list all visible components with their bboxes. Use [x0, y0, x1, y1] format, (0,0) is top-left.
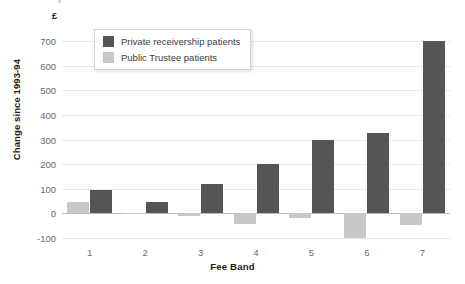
bar — [90, 190, 112, 213]
bar — [234, 213, 256, 224]
x-axis-title: Fee Band — [0, 261, 465, 272]
bar — [123, 213, 145, 214]
y-axis-tick-label: 600 — [40, 60, 56, 71]
gridline: -100 — [62, 238, 450, 239]
y-axis-tick-label: 300 — [40, 134, 56, 145]
y-axis-tick-label: 400 — [40, 109, 56, 120]
bar — [257, 164, 279, 213]
x-axis-tick-label: 5 — [309, 247, 314, 258]
legend-swatch-icon — [103, 36, 114, 47]
gridline: 400 — [62, 115, 450, 116]
bar — [178, 213, 200, 215]
y-axis-tick-label: -100 — [37, 233, 56, 244]
bar — [423, 41, 445, 213]
x-axis-tick-label: 4 — [253, 247, 258, 258]
y-axis-title: Change since 1993-94 — [11, 40, 22, 180]
legend-item: Public Trustee patients — [103, 52, 240, 63]
x-axis-tick-label: 2 — [142, 247, 147, 258]
legend-item-label: Private receivership patients — [121, 36, 240, 47]
y-axis-unit-symbol: £ — [52, 11, 57, 21]
bar — [367, 133, 389, 213]
y-axis-tick-label: 200 — [40, 159, 56, 170]
bar — [146, 202, 168, 214]
legend-item-label: Public Trustee patients — [121, 52, 217, 63]
y-axis-tick-label: 0 — [51, 208, 56, 219]
bar — [312, 140, 334, 214]
y-axis-tick-label: 100 — [40, 183, 56, 194]
bar — [289, 213, 311, 218]
bar — [67, 202, 89, 214]
plot-area: 7006005004003002001000-1001234567 — [62, 41, 450, 238]
bar — [201, 184, 223, 214]
gridline: 300 — [62, 140, 450, 141]
x-axis-tick-label: 1 — [87, 247, 92, 258]
legend-item: Private receivership patients — [103, 36, 240, 47]
x-axis-tick-label: 6 — [364, 247, 369, 258]
bar-chart: £ Change since 1993-94 Fee Band 70060050… — [0, 0, 465, 284]
y-axis-tick-label: 500 — [40, 85, 56, 96]
x-axis-tick-label: 3 — [198, 247, 203, 258]
gridline: 500 — [62, 90, 450, 91]
legend-swatch-icon — [103, 52, 114, 63]
bar — [400, 213, 422, 225]
chart-legend: Private receivership patientsPublic Trus… — [94, 29, 251, 70]
zero-line: 0 — [62, 213, 450, 214]
x-axis-tick-label: 7 — [420, 247, 425, 258]
y-axis-tick-label: 700 — [40, 36, 56, 47]
cropped-artifact — [58, 0, 61, 3]
bar — [344, 213, 366, 237]
